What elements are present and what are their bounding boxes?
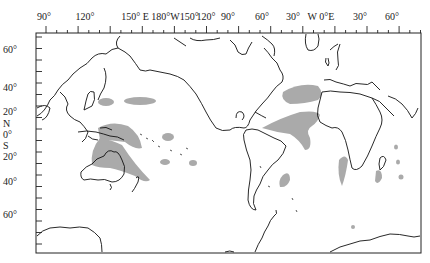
world-map	[0, 0, 430, 263]
shaded-regions	[92, 85, 404, 229]
coastlines	[37, 34, 420, 252]
longitude-ticks	[46, 26, 421, 33]
map-frame	[36, 33, 421, 253]
latitude-ticks	[36, 37, 42, 244]
